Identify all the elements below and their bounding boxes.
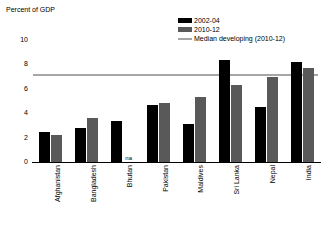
legend-item-series-1: 2010-12: [178, 25, 285, 34]
legend-label-series-1: 2010-12: [194, 25, 220, 34]
na-annotation: na: [123, 155, 134, 161]
bar-2002-04: [291, 62, 302, 162]
bar-group: [69, 40, 105, 162]
bar-2002-04: [39, 132, 50, 163]
x-axis-label-nepal: Nepal: [269, 165, 276, 183]
bar-group: [248, 40, 284, 162]
bar-2002-04: [111, 121, 122, 162]
y-axis-tick-2: 2: [6, 134, 28, 141]
bar-group: [141, 40, 177, 162]
bar-2010-12: [195, 97, 206, 162]
bar-2010-12: [231, 85, 242, 162]
bar-chart: Percent of GDP 2002-04 2010-12 Median de…: [0, 0, 328, 226]
y-axis-tick-10: 10: [6, 36, 28, 43]
y-axis-tick-6: 6: [6, 85, 28, 92]
x-axis-label-india: India: [305, 165, 312, 180]
bar-group: [33, 40, 69, 162]
y-axis-tick-4: 4: [6, 109, 28, 116]
bar-group: [284, 40, 320, 162]
x-axis-label-bangladesh: Bangladesh: [90, 165, 97, 202]
x-axis-label-bhutan: Bhutan: [126, 165, 133, 187]
bar-group: [212, 40, 248, 162]
bar-2010-12: [267, 77, 278, 162]
bar-group: [177, 40, 213, 162]
x-axis-label-pakistan: Pakistan: [162, 165, 169, 192]
bar-2002-04: [147, 105, 158, 162]
x-axis-label-maldives: Maldives: [197, 165, 204, 193]
bar-2002-04: [183, 124, 194, 162]
chart-legend: 2002-04 2010-12 Median developing (2010-…: [178, 16, 285, 43]
y-axis-title: Percent of GDP: [6, 6, 55, 13]
bar-2010-12: [303, 68, 314, 162]
bar-group: na: [105, 40, 141, 162]
bar-2010-12: [51, 135, 62, 162]
bar-2010-12: [87, 118, 98, 162]
y-axis-tick-8: 8: [6, 60, 28, 67]
x-axis-line: [32, 162, 321, 163]
square-gray-swatch-icon: [178, 27, 192, 32]
legend-item-series-0: 2002-04: [178, 16, 285, 25]
bar-2002-04: [219, 60, 230, 162]
legend-label-series-0: 2002-04: [194, 16, 220, 25]
x-axis-label-sri-lanka: Sri Lanka: [233, 165, 240, 195]
y-axis-tick-0: 0: [6, 158, 28, 165]
bar-2010-12: [159, 103, 170, 162]
square-black-swatch-icon: [178, 18, 192, 23]
bar-2002-04: [255, 107, 266, 162]
bar-2002-04: [75, 128, 86, 162]
x-axis-label-afghanistan: Afghanistan: [54, 165, 61, 202]
